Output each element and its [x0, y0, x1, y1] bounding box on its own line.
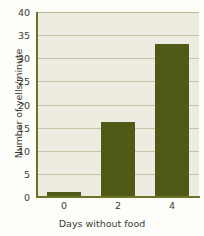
gridline — [37, 12, 199, 13]
x-axis-line — [36, 196, 200, 198]
y-tick-label: 35 — [18, 30, 30, 41]
y-tick-label: 0 — [24, 192, 30, 203]
plot-area — [37, 12, 199, 197]
y-tick-label: 15 — [18, 122, 30, 133]
x-tick-label: 4 — [169, 200, 175, 211]
y-tick-label: 25 — [18, 76, 30, 87]
x-axis-tick-labels: 024 — [37, 200, 199, 216]
bar-chart-figure: Number of yells/minute 0510152025303540 … — [0, 0, 204, 236]
x-axis-title: Days without food — [0, 218, 204, 229]
y-tick-label: 10 — [18, 145, 30, 156]
y-tick-label: 40 — [18, 7, 30, 18]
y-axis-tick-labels: 0510152025303540 — [0, 0, 33, 236]
gridline — [37, 35, 199, 36]
y-tick-label: 30 — [18, 53, 30, 64]
x-tick-label: 0 — [61, 200, 67, 211]
bar — [155, 44, 188, 197]
x-tick-label: 2 — [115, 200, 121, 211]
y-tick-label: 20 — [18, 99, 30, 110]
y-tick-label: 5 — [24, 168, 30, 179]
y-axis-line — [36, 12, 38, 198]
bar — [101, 122, 134, 197]
